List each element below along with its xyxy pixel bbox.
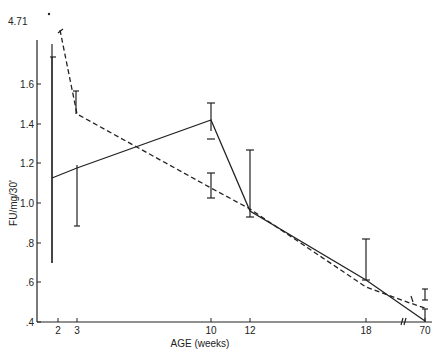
y-axis-title: FU/mg/30' xyxy=(8,180,19,226)
chart: .4 .6 .8 1.0 1.2 1.4 1.6 2 3 10 12 18 70… xyxy=(0,0,441,355)
offscale-dot xyxy=(48,13,50,15)
svg-text:1.4: 1.4 xyxy=(20,119,34,130)
svg-text:1.0: 1.0 xyxy=(20,198,34,209)
dashed-break-marks xyxy=(58,29,413,302)
x-axis-title: AGE (weeks) xyxy=(171,338,230,349)
svg-text:1.6: 1.6 xyxy=(20,79,34,90)
svg-text:.8: .8 xyxy=(26,238,35,249)
dashed-series-line xyxy=(60,30,425,308)
svg-text:.4: .4 xyxy=(26,317,35,328)
svg-text:1.2: 1.2 xyxy=(20,158,34,169)
x-tick-labels: 2 3 10 12 18 70 xyxy=(55,325,431,336)
y-tick-labels: .4 .6 .8 1.0 1.2 1.4 1.6 xyxy=(20,79,34,328)
solid-error-bars xyxy=(52,44,428,322)
offscale-label: 4.71 xyxy=(8,16,28,27)
svg-text:18: 18 xyxy=(360,325,372,336)
solid-series-line xyxy=(52,120,425,321)
svg-text:.6: .6 xyxy=(26,277,35,288)
svg-text:12: 12 xyxy=(244,325,256,336)
svg-text:70: 70 xyxy=(419,325,431,336)
svg-text:10: 10 xyxy=(205,325,217,336)
svg-text:3: 3 xyxy=(74,325,80,336)
svg-text:2: 2 xyxy=(55,325,61,336)
